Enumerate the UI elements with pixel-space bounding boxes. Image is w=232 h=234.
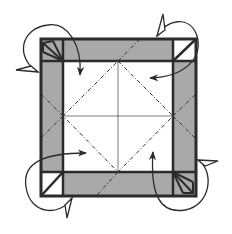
origami-diagram [0, 0, 232, 234]
